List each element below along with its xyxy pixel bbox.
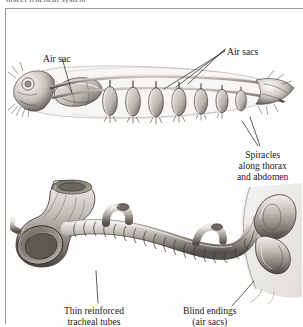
whole-insect-tracheal-system-illustration	[6, 54, 296, 139]
abdomen-tip-detail	[256, 70, 294, 115]
label-blind-endings-air-sacs: Blind endings (air sacs)	[183, 305, 237, 327]
label-tracheal-tubes-line-1: Thin reinforced	[64, 305, 124, 316]
label-air-sacs-line-1: Air sacs	[227, 46, 258, 57]
tracheal-tube-detail-illustration	[10, 179, 303, 304]
label-air-sacs: Air sacs	[227, 46, 258, 57]
label-spiracles-along-thorax-and-abdomen: Spiracles along thorax and abdomen	[237, 149, 288, 182]
label-tracheal-tubes-line-2: tracheal tubes	[64, 316, 124, 327]
label-thin-reinforced-tracheal-tubes: Thin reinforced tracheal tubes	[64, 305, 124, 327]
label-spiracles-line-2: along thorax	[237, 160, 288, 171]
figure-plate: Air sac Air sacs Spiracles along thorax …	[6, 9, 303, 324]
label-air-sac: Air sac	[43, 53, 70, 64]
label-spiracles-line-3: and abdomen	[237, 171, 288, 182]
label-spiracles-line-1: Spiracles	[237, 149, 288, 160]
label-air-sac-line-1: Air sac	[43, 53, 70, 64]
figure-caption-sliver: insect tracheal system	[6, 0, 186, 3]
label-blind-endings-line-1: Blind endings	[183, 305, 237, 316]
label-blind-endings-line-2: (air sacs)	[183, 316, 237, 327]
